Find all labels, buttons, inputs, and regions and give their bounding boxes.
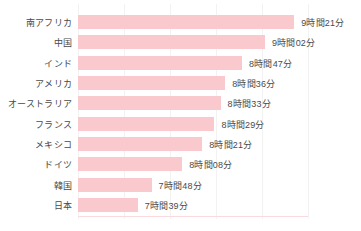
category-label: 中国 <box>54 36 72 49</box>
bar <box>78 15 294 29</box>
bar-value-label: 8時間36分 <box>232 77 275 90</box>
category-label: 南アフリカ <box>26 16 72 29</box>
bar-row: 韓国7時間48分 <box>78 174 308 194</box>
bar-row: アメリカ8時間36分 <box>78 73 308 93</box>
bar-row: インド8時間47分 <box>78 53 308 73</box>
bar-value-label: 8時間29分 <box>221 117 264 130</box>
bar-row: 南アフリカ9時間21分 <box>78 12 308 32</box>
bar-value-label: 8時間33分 <box>228 97 271 110</box>
axis-baseline <box>78 216 308 217</box>
bar-row: フランス8時間29分 <box>78 114 308 134</box>
bar <box>78 137 202 151</box>
bar-value-label: 7時間39分 <box>145 198 188 211</box>
bar-value-label: 8時間21分 <box>209 137 252 150</box>
bar-row: 日本7時間39分 <box>78 195 308 215</box>
bar-value-label: 8時間47分 <box>249 56 292 69</box>
bar-row: オーストラリア8時間33分 <box>78 93 308 113</box>
bar-chart: 南アフリカ9時間21分中国9時間02分インド8時間47分アメリカ8時間36分オー… <box>0 0 361 231</box>
bar-value-label: 7時間48分 <box>159 178 202 191</box>
category-label: ドイツ <box>44 158 72 171</box>
bar-value-label: 9時間02分 <box>272 36 315 49</box>
category-label: インド <box>44 56 72 69</box>
category-label: フランス <box>35 117 72 130</box>
bar-row: 中国9時間02分 <box>78 32 308 52</box>
bar-value-label: 8時間08分 <box>189 158 232 171</box>
bar <box>78 198 138 212</box>
bar-value-label: 9時間21分 <box>301 16 344 29</box>
plot-area: 南アフリカ9時間21分中国9時間02分インド8時間47分アメリカ8時間36分オー… <box>78 0 308 231</box>
bar <box>78 35 265 49</box>
bar <box>78 56 242 70</box>
bar <box>78 96 221 110</box>
category-label: オーストラリア <box>8 97 72 110</box>
bar-row: メキシコ8時間21分 <box>78 134 308 154</box>
bar <box>78 117 214 131</box>
category-label: 日本 <box>54 198 72 211</box>
bar <box>78 178 152 192</box>
bar <box>78 76 225 90</box>
category-label: アメリカ <box>35 77 72 90</box>
category-label: 韓国 <box>54 178 72 191</box>
category-label: メキシコ <box>35 137 72 150</box>
bar <box>78 157 182 171</box>
bar-row: ドイツ8時間08分 <box>78 154 308 174</box>
